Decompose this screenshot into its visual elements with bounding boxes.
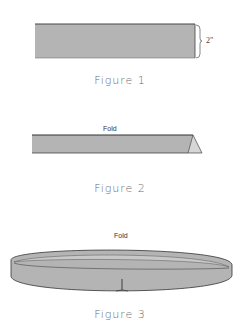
- dimension-label: 2": [206, 36, 213, 45]
- figure-2-fold-label: Fold: [103, 125, 117, 132]
- diagram-canvas: [0, 0, 240, 325]
- figure-1-caption: Figure 1: [0, 74, 240, 87]
- dimension-brace-icon: [196, 25, 202, 58]
- figure-3-fold-label: Fold: [114, 232, 128, 239]
- figure-1-strip: [35, 24, 195, 58]
- figure-2-caption: Figure 2: [0, 182, 240, 195]
- figure-3-ring: [11, 250, 232, 291]
- figure-3-caption: Figure 3: [0, 308, 240, 321]
- figure-2-folded-strip: [32, 135, 202, 153]
